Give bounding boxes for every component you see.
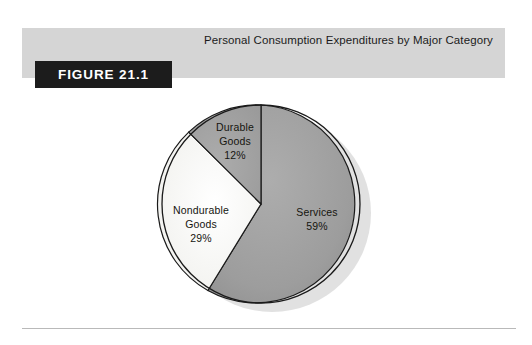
pie-chart: Durable Goods 12% Nondurable Goods 29% S… [150, 98, 390, 313]
pie-label-durable-goods-line2: Goods [198, 134, 272, 148]
figure-page: Personal Consumption Expenditures by Maj… [0, 0, 532, 345]
pie-label-nondurable-goods-value: 29% [149, 231, 253, 245]
pie-label-nondurable-goods-line2: Goods [149, 217, 253, 231]
figure-number-label: FIGURE 21.1 [58, 67, 149, 82]
page-bottom-rule [22, 328, 516, 329]
pie-label-durable-goods-value: 12% [198, 148, 272, 162]
pie-label-services-value: 59% [274, 219, 360, 233]
pie-label-durable-goods: Durable Goods 12% [198, 120, 272, 162]
pie-label-durable-goods-line1: Durable [198, 120, 272, 134]
figure-number-banner: FIGURE 21.1 [35, 61, 172, 88]
pie-label-services: Services 59% [274, 205, 360, 233]
figure-title: Personal Consumption Expenditures by Maj… [204, 33, 504, 49]
pie-label-nondurable-goods: Nondurable Goods 29% [149, 203, 253, 245]
pie-label-services-line1: Services [274, 205, 360, 219]
pie-label-nondurable-goods-line1: Nondurable [149, 203, 253, 217]
